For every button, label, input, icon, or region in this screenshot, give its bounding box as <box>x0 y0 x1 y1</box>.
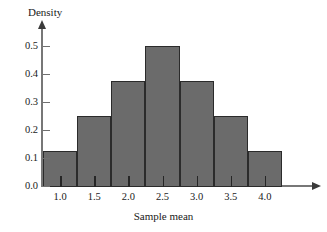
x-tick-mark <box>265 176 267 187</box>
x-tick-label: 4.0 <box>245 191 285 202</box>
x-tick-mark <box>60 176 62 187</box>
x-tick-mark <box>128 176 130 187</box>
histogram-bar <box>180 81 214 187</box>
y-tick-mark <box>43 186 50 187</box>
y-tick-mark <box>43 46 50 47</box>
y-tick-mark <box>43 130 50 131</box>
x-tick-mark <box>94 176 96 187</box>
y-tick-label: 0.4 <box>12 69 38 79</box>
histogram-figure: Density Sample mean 0.00.10.20.30.40.5 1… <box>0 0 327 232</box>
histogram-bar <box>145 46 179 187</box>
y-tick-label: 0.0 <box>12 181 38 191</box>
y-tick-label: 0.3 <box>12 97 38 107</box>
y-tick-label: 0.5 <box>12 41 38 51</box>
y-tick-mark <box>43 158 50 159</box>
y-tick-mark <box>43 102 50 103</box>
x-tick-mark <box>197 176 199 187</box>
x-tick-mark <box>163 176 165 187</box>
y-tick-mark <box>43 74 50 75</box>
histogram-bar <box>111 81 145 187</box>
y-tick-label: 0.2 <box>12 125 38 135</box>
y-tick-label: 0.1 <box>12 153 38 163</box>
x-tick-mark <box>231 176 233 187</box>
